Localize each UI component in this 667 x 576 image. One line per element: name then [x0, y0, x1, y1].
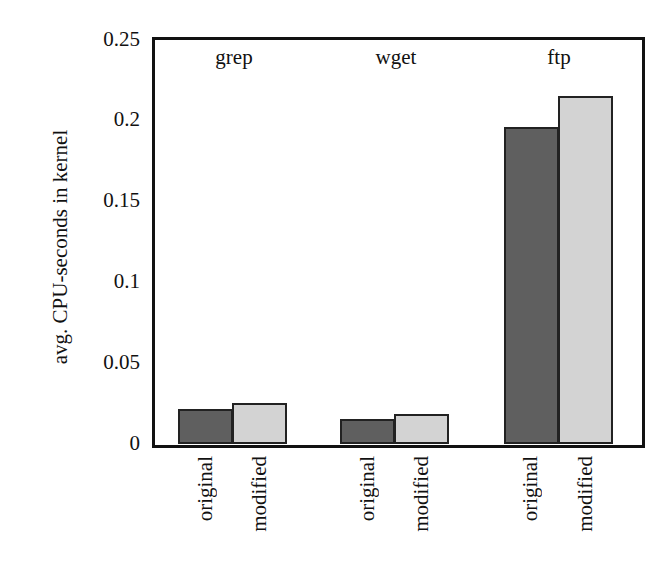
y-tick-label: 0: [130, 433, 141, 454]
bar-wget-modified: [394, 414, 449, 444]
x-label: modified: [574, 456, 596, 556]
bar-grep-modified: [232, 403, 287, 444]
y-tick-label: 0.25: [103, 29, 140, 50]
x-label: modified: [248, 456, 270, 556]
bar-wget-original: [340, 419, 395, 444]
x-label: original: [519, 456, 541, 556]
y-tick-label: 0.15: [103, 190, 140, 211]
y-tick-label: 0.2: [114, 109, 140, 130]
y-tick-label: 0.05: [103, 352, 140, 373]
bar-ftp-original: [504, 127, 559, 444]
group-label-ftp: ftp: [547, 45, 570, 70]
bar-grep-original: [178, 409, 233, 444]
group-label-grep: grep: [215, 45, 252, 70]
y-axis-title: avg. CPU-seconds in kernel: [48, 130, 73, 364]
x-label: modified: [410, 456, 432, 556]
x-label: original: [356, 456, 378, 556]
x-label: original: [194, 456, 216, 556]
bar-ftp-modified: [558, 96, 613, 444]
group-label-wget: wget: [376, 45, 417, 70]
bar-chart: avg. CPU-seconds in kernel 0 0.05 0.1 0.…: [0, 0, 667, 576]
y-tick-label: 0.1: [114, 271, 140, 292]
